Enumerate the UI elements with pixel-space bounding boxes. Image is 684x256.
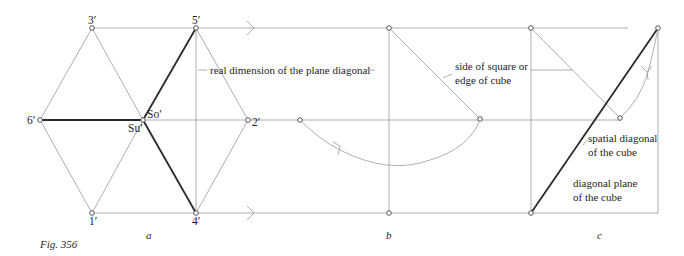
point-label-4: 4′ bbox=[192, 215, 200, 227]
panel-label-a: a bbox=[146, 229, 152, 241]
point-label-3: 3′ bbox=[88, 14, 96, 26]
point-label-6: 6′ bbox=[27, 114, 35, 126]
cube-projection-diagram: real dimension of the plane diagonal sid… bbox=[0, 0, 684, 256]
panel-b bbox=[300, 28, 480, 213]
point-label-5: 5′ bbox=[192, 14, 200, 26]
point-label-1: 1′ bbox=[89, 215, 97, 227]
diagonal-plane-label-1: diagonal plane bbox=[573, 177, 638, 189]
panel-label-b: b bbox=[386, 229, 392, 241]
side-of-square-label-2: edge of cube bbox=[455, 74, 511, 86]
spatial-diagonal-label-1: spatial diagonal bbox=[588, 132, 657, 144]
figure-caption: Fig. 356 bbox=[39, 238, 78, 250]
panel-label-c: c bbox=[597, 229, 602, 241]
point-label-2: 2′ bbox=[252, 116, 260, 128]
spatial-diagonal-label-2: of the cube bbox=[588, 146, 637, 158]
diagonal-plane-label-2: of the cube bbox=[573, 191, 622, 203]
point-label-so: So′ bbox=[147, 108, 162, 120]
side-of-square-label-1: side of square or bbox=[455, 60, 528, 72]
plane-diagonal-label: real dimension of the plane diagonal bbox=[210, 64, 370, 76]
arc-arrow-icon-c bbox=[641, 66, 652, 72]
point-label-su: Su′ bbox=[128, 122, 143, 134]
